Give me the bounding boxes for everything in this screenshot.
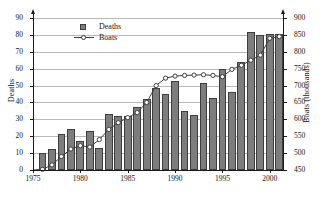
y-tick-left [30, 52, 33, 53]
y-ticklabel-left: 70 [16, 48, 24, 56]
y-tick-right [284, 52, 287, 53]
y-tick-right [284, 153, 287, 154]
data-point-marker [88, 145, 92, 149]
x-ticklabel: 1990 [168, 175, 183, 183]
data-point-marker [135, 110, 139, 114]
x-ticklabel: 2000 [262, 175, 277, 183]
y-tick-left [30, 35, 33, 36]
y-axis-left-title: Deaths [7, 61, 16, 121]
data-point-marker [230, 67, 234, 71]
data-point-marker [116, 121, 120, 125]
data-point-marker [211, 73, 215, 77]
axis-left-arrow-icon [31, 9, 35, 14]
x-ticklabel: 1975 [26, 175, 41, 183]
chart-legend: Deaths Boats [74, 21, 121, 43]
data-point-marker [107, 127, 111, 131]
y-ticklabel-right: 750 [294, 65, 305, 73]
legend-label-deaths: Deaths [99, 21, 121, 32]
y-tick-left [30, 86, 33, 87]
boats-markers [40, 34, 281, 171]
data-point-marker [173, 74, 177, 78]
x-tick [33, 170, 34, 173]
y-tick-left [30, 18, 33, 19]
x-tick [80, 170, 81, 173]
legend-item-boats: Boats [74, 32, 121, 43]
y-ticklabel-left: 30 [16, 115, 24, 123]
data-point-marker [154, 83, 158, 87]
y-ticklabel-left: 80 [16, 31, 24, 39]
y-ticklabel-left: 20 [16, 132, 24, 140]
axis-right-arrow-icon [281, 9, 285, 14]
data-point-marker [164, 76, 168, 80]
data-point-marker [97, 138, 101, 142]
y-ticklabel-right: 550 [294, 132, 305, 140]
y-ticklabel-right: 450 [294, 166, 305, 174]
data-point-marker [201, 73, 205, 77]
axis-bottom-line [33, 170, 284, 171]
y-ticklabel-left: 50 [16, 82, 24, 90]
y-tick-right [284, 86, 287, 87]
filled-square-icon [74, 22, 94, 31]
x-tick [128, 170, 129, 173]
y-tick-left [30, 102, 33, 103]
x-tick [175, 170, 176, 173]
data-point-marker [69, 147, 73, 151]
y-ticklabel-right: 500 [294, 149, 305, 157]
chart-figure: Deaths Boats (thousands) 010203040506070… [0, 0, 330, 200]
y-ticklabel-left: 90 [16, 14, 24, 22]
y-tick-right [284, 18, 287, 19]
data-point-marker [220, 75, 224, 79]
legend-label-boats: Boats [99, 32, 117, 43]
x-tick [270, 170, 271, 173]
y-ticklabel-right: 700 [294, 82, 305, 90]
y-ticklabel-left: 60 [16, 65, 24, 73]
data-point-marker [239, 63, 243, 67]
y-tick-left [30, 136, 33, 137]
data-point-marker [258, 53, 262, 57]
y-tick-right [284, 35, 287, 36]
y-tick-right [284, 170, 287, 171]
data-point-marker [126, 116, 130, 120]
data-point-marker [78, 144, 82, 148]
line-circle-icon [74, 33, 94, 42]
y-ticklabel-right: 850 [294, 31, 305, 39]
data-point-marker [50, 163, 54, 167]
y-ticklabel-left: 10 [16, 149, 24, 157]
data-point-marker [268, 36, 272, 40]
data-point-marker [192, 73, 196, 77]
x-ticklabel: 1985 [120, 175, 135, 183]
y-tick-left [30, 119, 33, 120]
line-series-boats [33, 18, 284, 170]
x-ticklabel: 1980 [73, 175, 88, 183]
data-point-marker [277, 34, 281, 38]
legend-item-deaths: Deaths [74, 21, 121, 32]
x-ticklabel: 1995 [215, 175, 230, 183]
axis-left-line [33, 12, 34, 170]
y-tick-left [30, 69, 33, 70]
x-tick [222, 170, 223, 173]
y-tick-right [284, 136, 287, 137]
y-tick-left [30, 153, 33, 154]
data-point-marker [182, 73, 186, 77]
y-tick-right [284, 119, 287, 120]
data-point-marker [145, 100, 149, 104]
y-ticklabel-right: 600 [294, 115, 305, 123]
y-tick-right [284, 69, 287, 70]
y-ticklabel-left: 40 [16, 98, 24, 106]
y-ticklabel-right: 650 [294, 98, 305, 106]
y-ticklabel-right: 900 [294, 14, 305, 22]
y-tick-right [284, 102, 287, 103]
y-ticklabel-right: 800 [294, 48, 305, 56]
plot-area: 0102030405060708090 45050055060065070075… [33, 18, 284, 170]
data-point-marker [59, 154, 63, 158]
y-ticklabel-left: 0 [19, 166, 23, 174]
data-point-marker [249, 58, 253, 62]
